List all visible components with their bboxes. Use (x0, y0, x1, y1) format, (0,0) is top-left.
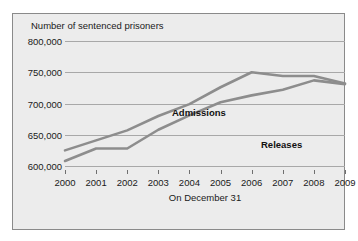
x-axis-tick-label: 2009 (334, 177, 355, 188)
x-axis-tick (96, 170, 97, 174)
x-axis-tick-label: 2001 (86, 177, 107, 188)
x-axis-tick-label: 2004 (179, 177, 200, 188)
chart-title: Number of sentenced prisoners (31, 20, 164, 31)
x-axis-tick (221, 170, 222, 174)
x-axis-tick-label: 2006 (241, 177, 262, 188)
y-axis-tick-label: 750,000 (28, 67, 62, 78)
x-axis-tick (158, 170, 159, 174)
x-axis-tick (252, 170, 253, 174)
x-axis-tick-label: 2007 (272, 177, 293, 188)
x-axis-tick (189, 170, 190, 174)
x-axis-tick (345, 170, 346, 174)
x-axis-title: On December 31 (169, 192, 241, 203)
plot-area: 600,000650,000700,000750,000800,000 2000… (65, 41, 345, 166)
y-axis-tick-label: 650,000 (28, 129, 62, 140)
x-axis-tick (127, 170, 128, 174)
x-axis-tick-label: 2008 (303, 177, 324, 188)
y-axis-tick-label: 800,000 (28, 36, 62, 47)
x-axis-tick-label: 2005 (210, 177, 231, 188)
x-axis-tick-label: 2000 (54, 177, 75, 188)
y-axis-tick-label: 600,000 (28, 161, 62, 172)
gridline (65, 166, 345, 167)
line-releases (65, 80, 345, 161)
x-axis-tick-label: 2003 (148, 177, 169, 188)
series-group (65, 41, 345, 166)
x-axis-tick (65, 170, 66, 174)
x-axis-tick-label: 2002 (117, 177, 138, 188)
y-axis-tick-label: 700,000 (28, 98, 62, 109)
chart-figure: Number of sentenced prisoners 600,000650… (12, 13, 345, 230)
series-label-releases: Releases (261, 139, 302, 150)
series-label-admissions: Admissions (172, 107, 226, 118)
x-axis-tick (314, 170, 315, 174)
x-axis-tick (283, 170, 284, 174)
